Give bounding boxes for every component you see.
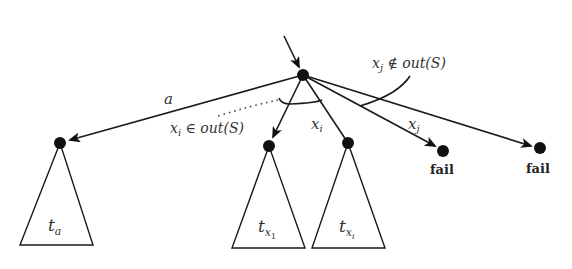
subtree-tx1: tx1 bbox=[232, 146, 305, 248]
edge-root-to-x1 bbox=[273, 75, 303, 137]
subtree-ta: ta bbox=[20, 143, 93, 245]
fail-label-2: fail bbox=[526, 161, 550, 176]
node-fail1 bbox=[437, 145, 449, 157]
edge-label-a: a bbox=[164, 90, 173, 108]
dotted-pointer bbox=[218, 100, 278, 116]
node-root bbox=[297, 69, 309, 81]
label-in-out: xi ∈ out(S) bbox=[170, 120, 244, 138]
incoming-edge bbox=[284, 36, 299, 67]
node-x1 bbox=[263, 140, 275, 152]
grouping-arc-notin bbox=[360, 76, 410, 106]
edge-label-xi: xi bbox=[311, 115, 323, 134]
fail-label-1: fail bbox=[430, 162, 454, 177]
grouping-arc-in bbox=[279, 98, 322, 104]
node-fail2 bbox=[534, 142, 546, 154]
subtree-txi: txi bbox=[312, 143, 385, 248]
edge-root-to-xi bbox=[303, 75, 348, 143]
edge-root-to-fail2 bbox=[303, 75, 531, 146]
tree-diagram: ta tx1 txi a xi xj xi ∈ out(S) xj ∉ out(… bbox=[0, 0, 572, 269]
node-xi bbox=[342, 137, 354, 149]
label-notin-out: xj ∉ out(S) bbox=[372, 55, 446, 73]
edge-label-xj: xj bbox=[408, 115, 420, 134]
node-a bbox=[54, 137, 66, 149]
